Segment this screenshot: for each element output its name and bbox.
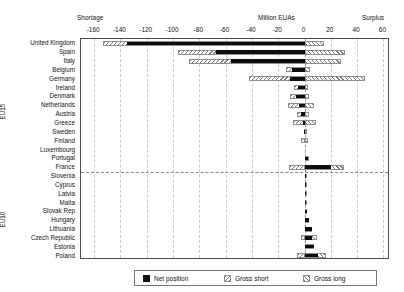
x-tick-label-neg140: -140 [113, 26, 126, 33]
bar-net-position [305, 174, 306, 178]
y-category-label: Latvia [58, 189, 75, 196]
bar-row [81, 110, 388, 119]
bar-net-position [216, 50, 304, 54]
chart-legend: Net position Gross short Gross long [134, 270, 377, 286]
bar-net-position [305, 165, 331, 169]
bar-row [81, 154, 388, 163]
legend-swatch-gross-short-icon [224, 275, 231, 282]
x-tick-label-0: 0 [302, 26, 306, 33]
y-category-label: Belgium [52, 65, 75, 72]
legend-label-gross-short: Gross short [235, 275, 269, 282]
bar-net-position [305, 210, 307, 214]
plot-area [80, 38, 389, 259]
y-category-label: Poland [55, 251, 75, 258]
bar-net-position [305, 236, 313, 240]
y-category-label: Cyprus [55, 180, 75, 187]
y-category-label: Portugal [52, 154, 75, 161]
bar-net-position [301, 112, 305, 116]
bar-row [81, 189, 388, 198]
bar-net-position [299, 104, 304, 108]
bar-row [81, 242, 388, 251]
y-category-label: Greece [54, 118, 75, 125]
bar-row [81, 39, 388, 48]
y-category-label: United Kingdom [30, 39, 75, 46]
x-tick-label-40: 40 [353, 26, 360, 33]
bar-net-position [304, 130, 305, 134]
bar-net-position [298, 86, 305, 90]
y-category-label: Austria [55, 110, 75, 117]
bar-net-position [231, 59, 305, 63]
bar-row [81, 57, 388, 66]
group-label-eu15: EU15 [0, 104, 6, 120]
bar-row [81, 180, 388, 189]
bar-gross-short [289, 165, 305, 170]
y-category-label: Spain [59, 48, 75, 55]
bar-row [81, 251, 388, 260]
bar-row [81, 216, 388, 225]
legend-swatch-gross-long-icon [303, 275, 310, 282]
bar-row [81, 119, 388, 128]
bar-net-position [305, 254, 319, 258]
bar-gross-long [305, 85, 309, 90]
bar-row [81, 172, 388, 181]
bar-gross-long [305, 59, 342, 64]
x-tick-label-60: 60 [379, 26, 386, 33]
bar-row [81, 74, 388, 83]
bar-row [81, 92, 388, 101]
bar-net-position [305, 201, 307, 205]
y-category-label: Italy [63, 57, 75, 64]
bar-gross-long [305, 50, 346, 55]
y-category-label: Estonia [54, 242, 75, 249]
y-category-label: Slovak Rep [43, 207, 75, 214]
x-tick-label-neg120: -120 [139, 26, 152, 33]
bar-row [81, 163, 388, 172]
y-category-label: Luxembourg [40, 145, 75, 152]
x-tick-label-neg20: -20 [273, 26, 282, 33]
bar-net-position [296, 95, 305, 99]
bar-gross-long [305, 112, 310, 117]
bar-gross-long [305, 138, 309, 143]
bar-rows [81, 39, 388, 258]
bar-net-position [303, 121, 304, 125]
y-category-label: Denmark [49, 92, 75, 99]
y-category-label: Germany [49, 74, 75, 81]
bar-gross-long [305, 41, 325, 46]
bar-row [81, 198, 388, 207]
y-category-label: Czech Republic [31, 233, 75, 240]
x-tick-label-neg60: -60 [220, 26, 229, 33]
bar-net-position [290, 77, 304, 81]
shortage-header-label: Shortage [77, 14, 103, 21]
bar-gross-long [305, 76, 365, 81]
bar-row [81, 66, 388, 75]
x-tick-label-neg80: -80 [194, 26, 203, 33]
y-category-label: Malta [60, 198, 75, 205]
x-axis-tick-labels: -160-140-120-100-80-60-40-200204060 [0, 26, 404, 36]
y-category-label: Lithuania [49, 225, 75, 232]
bar-row [81, 83, 388, 92]
bar-row [81, 127, 388, 136]
bar-row [81, 136, 388, 145]
units-header-label: Million EUAs [258, 14, 295, 21]
bar-net-position [305, 218, 309, 222]
bar-gross-long [305, 94, 310, 99]
x-tick-label-neg160: -160 [87, 26, 100, 33]
y-category-label: Ireland [56, 83, 75, 90]
group-label-eu10: EU10 [0, 212, 6, 228]
bar-net-position [305, 227, 312, 231]
bar-row [81, 48, 388, 57]
bar-net-position [305, 157, 309, 161]
chart-container: Shortage Million EUAs Surplus -160-140-1… [0, 0, 404, 292]
legend-item-gross-long: Gross long [303, 275, 345, 282]
bar-gross-long [305, 120, 317, 125]
y-category-label: Netherlands [41, 101, 75, 108]
legend-label-net-position: Net position [154, 275, 188, 282]
x-tick-label-neg40: -40 [246, 26, 255, 33]
legend-swatch-net-icon [143, 275, 150, 282]
y-category-label: Finland [54, 136, 75, 143]
bar-row [81, 225, 388, 234]
y-category-label: France [55, 163, 75, 170]
bar-net-position [305, 183, 306, 187]
x-tick-label-20: 20 [326, 26, 333, 33]
y-category-label: Slovenia [51, 172, 75, 179]
y-category-label: Hungary [51, 216, 75, 223]
